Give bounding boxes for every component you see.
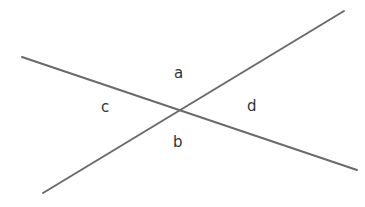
angle-label-d: d [247,99,257,114]
angle-label-c: c [101,100,109,115]
descending-line [22,57,357,170]
ascending-line [43,11,344,193]
angle-label-a: a [174,66,183,81]
lines-layer [0,0,365,207]
crossing-lines-diagram: a b c d [0,0,365,207]
angle-label-b: b [173,135,183,150]
